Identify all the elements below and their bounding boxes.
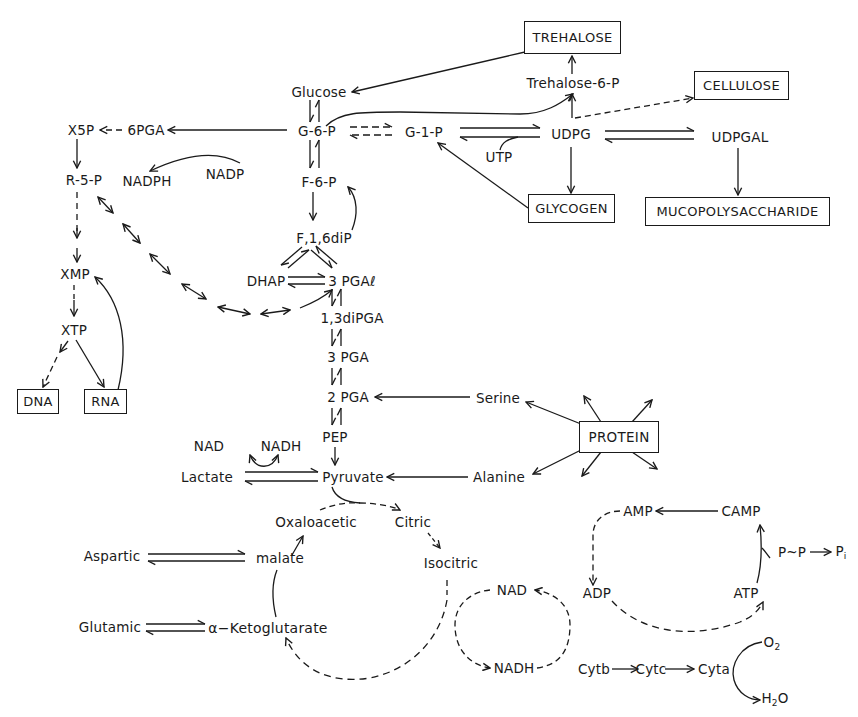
label-h2o: H2O <box>761 690 788 711</box>
label-2pga: 2 PGA <box>327 389 369 405</box>
box-rna: RNA <box>84 389 127 414</box>
box-protein: PROTEIN <box>579 421 659 453</box>
label-nad-top: NAD <box>194 438 224 454</box>
pi-sub: i <box>844 551 847 561</box>
label-x5p: X5P <box>68 122 95 138</box>
label-alanine: Alanine <box>473 469 525 485</box>
metabolic-pathway-diagram: TREHALOSE CELLULOSE GLYCOGEN MUCOPOLYSAC… <box>0 0 858 717</box>
label-nadph: NADPH <box>122 173 171 189</box>
label-adp: ADP <box>583 585 611 601</box>
box-glycogen: GLYCOGEN <box>528 194 615 223</box>
label-lactate: Lactate <box>181 469 233 485</box>
label-cyta: Cyta <box>698 661 730 677</box>
label-utp: UTP <box>486 149 513 165</box>
label-g6p: G-6-P <box>298 123 336 139</box>
label-3pga: 3 PGA <box>327 349 369 365</box>
label-nadh-top: NADH <box>261 438 302 454</box>
label-6pga: 6PGA <box>127 122 164 138</box>
label-serine: Serine <box>476 390 520 406</box>
label-atp: ATP <box>733 585 758 601</box>
label-glutamic: Glutamic <box>79 619 141 635</box>
box-cellulose: CELLULOSE <box>694 71 789 100</box>
label-pep: PEP <box>322 429 347 445</box>
label-udpg: UDPG <box>551 126 591 142</box>
box-mucopolysaccharide: MUCOPOLYSACCHARIDE <box>645 197 830 226</box>
label-oxaloacetic: Oxaloacetic <box>275 514 357 530</box>
label-xmp: XMP <box>60 266 90 282</box>
label-g1p: G-1-P <box>405 124 443 140</box>
label-amp: AMP <box>623 503 653 519</box>
label-r5p: R-5-P <box>66 172 102 188</box>
label-13dipga: 1,3diPGA <box>320 310 383 326</box>
label-udpgal: UDPGAL <box>712 129 769 145</box>
label-dhap: DHAP <box>247 273 286 289</box>
o2-sub: 2 <box>774 642 780 652</box>
label-xtp: XTP <box>61 322 87 338</box>
label-pyruvate: Pyruvate <box>322 469 384 485</box>
label-f16dip: F,1,6diP <box>296 230 352 246</box>
h2o-h: H <box>761 690 771 706</box>
box-dna: DNA <box>17 389 59 414</box>
label-isocitric: Isocitric <box>424 555 478 571</box>
label-aspartic: Aspartic <box>84 548 141 564</box>
label-nadp: NADP <box>206 166 245 182</box>
label-pi: Pi <box>835 543 846 564</box>
label-cytc: Cytc <box>636 661 667 677</box>
pathway-arrows <box>0 0 858 717</box>
h2o-o: O <box>778 690 789 706</box>
label-malate: malate <box>256 550 304 566</box>
label-o2: O2 <box>764 634 781 655</box>
label-3pgal: 3 PGAℓ <box>328 273 376 289</box>
label-camp: CAMP <box>721 503 760 519</box>
label-nadh-cycle: NADH <box>494 660 535 676</box>
label-trehalose-6-p: Trehalose-6-P <box>526 75 619 91</box>
label-glucose: Glucose <box>291 84 346 100</box>
box-trehalose: TREHALOSE <box>524 21 621 54</box>
o2-o: O <box>764 634 775 650</box>
label-nad-cycle: NAD <box>497 582 527 598</box>
label-ketoglutarate: α−Ketoglutarate <box>208 620 327 636</box>
label-f6p: F-6-P <box>301 174 336 190</box>
label-citric: Citric <box>395 514 431 530</box>
label-ppi: P~P <box>778 544 806 560</box>
label-cytb: Cytb <box>578 661 610 677</box>
